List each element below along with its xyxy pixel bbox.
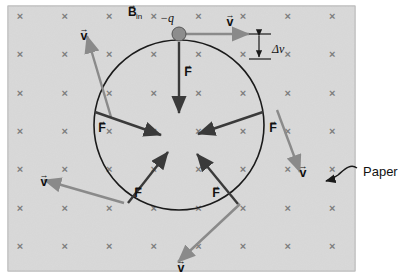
- magnetic-field-into-page-x: ×: [284, 87, 290, 99]
- magnetic-field-into-page-x: ×: [329, 240, 335, 252]
- magnetic-field-into-page-x: ×: [284, 48, 290, 60]
- b-field-subscript: in: [136, 12, 142, 21]
- magnetic-field-into-page-x: ×: [240, 125, 246, 137]
- magnetic-field-into-page-x: ×: [195, 87, 201, 99]
- magnetic-field-into-page-x: ×: [61, 125, 67, 137]
- paper-texture: [8, 6, 355, 271]
- magnetic-field-into-page-x: ×: [329, 10, 335, 22]
- diagram-canvas: ××××××××××××××××××××××××××××××××××××××××…: [0, 0, 399, 277]
- force-label: F: [134, 186, 142, 200]
- force-label: F: [212, 186, 220, 200]
- velocity-label: v: [41, 175, 48, 189]
- magnetic-field-into-page-x: ×: [151, 240, 157, 252]
- magnetic-field-into-page-x: ×: [284, 163, 290, 175]
- magnetic-field-into-page-x: ×: [17, 202, 23, 214]
- magnetic-field-into-page-x: ×: [17, 87, 23, 99]
- force-label: F: [98, 121, 106, 135]
- magnetic-field-into-page-x: ×: [17, 48, 23, 60]
- force-label: F: [184, 65, 192, 79]
- magnetic-field-into-page-x: ×: [240, 10, 246, 22]
- magnetic-field-into-page-x: ×: [195, 163, 201, 175]
- magnetic-field-into-page-x: ×: [329, 202, 335, 214]
- magnetic-field-into-page-x: ×: [329, 125, 335, 137]
- magnetic-field-into-page-x: ×: [240, 240, 246, 252]
- velocity-upper-left-label: →v: [80, 24, 89, 43]
- velocity-label: v: [81, 29, 88, 43]
- magnetic-field-into-page-x: ×: [195, 10, 201, 22]
- magnetic-field-into-page-x: ×: [329, 87, 335, 99]
- magnetic-field-into-page-x: ×: [61, 10, 67, 22]
- magnetic-field-into-page-x: ×: [284, 10, 290, 22]
- magnetic-field-into-page-x: ×: [329, 48, 335, 60]
- magnetic-field-into-page-x: ×: [106, 202, 112, 214]
- velocity-label: v: [178, 261, 185, 275]
- force-right-label: →F: [269, 116, 278, 135]
- velocity-top-label: →v: [226, 10, 235, 29]
- delta-v-label: Δv: [271, 42, 285, 56]
- magnetic-field-into-page-x: ×: [284, 240, 290, 252]
- magnetic-field-into-page-x: ×: [17, 240, 23, 252]
- magnetic-field-into-page-x: ×: [240, 87, 246, 99]
- magnetic-field-into-page-x: ×: [106, 48, 112, 60]
- magnetic-field-into-page-x: ×: [106, 10, 112, 22]
- charge-label: −q: [160, 11, 174, 25]
- magnetic-field-into-page-x: ×: [106, 87, 112, 99]
- field-region-panel: [8, 6, 355, 271]
- magnetic-field-into-page-x: ×: [106, 240, 112, 252]
- particle-group: [172, 27, 186, 41]
- magnetic-field-into-page-x: ×: [61, 48, 67, 60]
- magnetic-field-into-page-x: ×: [17, 163, 23, 175]
- physics-diagram-magnetic-force: ××××××××××××××××××××××××××××××××××××××××…: [0, 0, 399, 277]
- force-top-label: →F: [184, 60, 193, 79]
- magnetic-field-into-page-x: ×: [151, 10, 157, 22]
- force-label: F: [269, 121, 277, 135]
- magnetic-field-into-page-x: ×: [61, 202, 67, 214]
- force-lower-left-label: →F: [134, 181, 143, 200]
- magnetic-field-into-page-x: ×: [61, 240, 67, 252]
- paper-label: Paper: [363, 164, 398, 179]
- magnetic-field-into-page-x: ×: [240, 202, 246, 214]
- magnetic-field-into-page-x: ×: [151, 87, 157, 99]
- magnetic-field-into-page-x: ×: [195, 48, 201, 60]
- magnetic-field-into-page-x: ×: [17, 125, 23, 137]
- magnetic-field-into-page-x: ×: [284, 202, 290, 214]
- velocity-right-label: →v: [299, 161, 308, 180]
- magnetic-field-into-page-x: ×: [17, 10, 23, 22]
- magnetic-field-into-page-x: ×: [329, 163, 335, 175]
- magnetic-field-into-page-x: ×: [106, 125, 112, 137]
- velocity-bottom-label: →v: [177, 256, 186, 275]
- velocity-label: v: [300, 166, 307, 180]
- magnetic-field-into-page-x: ×: [61, 87, 67, 99]
- charged-particle: [172, 27, 186, 41]
- velocity-left-label: →v: [40, 170, 49, 189]
- velocity-label: v: [227, 15, 234, 29]
- magnetic-field-into-page-x: ×: [61, 163, 67, 175]
- force-left-label: →F: [98, 116, 107, 135]
- magnetic-field-into-page-x: ×: [240, 48, 246, 60]
- magnetic-field-into-page-x: ×: [151, 48, 157, 60]
- force-lower-right-label: →F: [212, 181, 221, 200]
- magnetic-field-into-page-x: ×: [240, 163, 246, 175]
